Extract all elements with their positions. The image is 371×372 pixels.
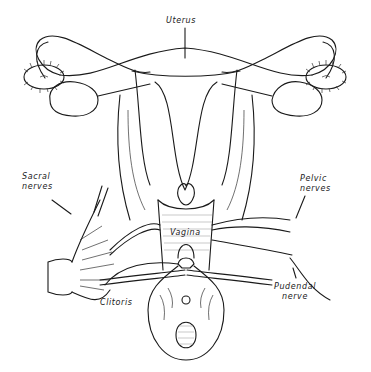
- right-ovary: [272, 82, 322, 116]
- pudendal-right-branch: [187, 270, 272, 285]
- sacral-trunk-upper: [72, 200, 100, 262]
- left-fallopian-tube: [36, 36, 150, 75]
- label-pudendal-line2: nerve: [282, 292, 308, 302]
- clitoris-leader-line: [105, 263, 178, 285]
- left-tube-inner: [37, 42, 48, 78]
- label-sacral-line2: nerves: [22, 182, 53, 192]
- urethral-opening: [182, 296, 190, 304]
- left-pelvic-branches: [110, 224, 160, 255]
- label-pelvic-line2: nerves: [300, 184, 331, 194]
- sacral-label-arrow: [52, 200, 71, 214]
- uterine-cavity: [155, 82, 217, 190]
- introitus-hatching: [178, 326, 194, 344]
- anatomy-diagram: Uterus Sacral nerves Pelvic nerves Vagin…: [0, 0, 371, 372]
- label-clitoris: Clitoris: [100, 298, 133, 308]
- clitoris-glans: [178, 258, 194, 268]
- right-fallopian-tube: [222, 36, 336, 75]
- uterus-left-wall: [135, 70, 150, 185]
- broad-ligament-lines: [118, 95, 255, 220]
- sacral-upper-branches: [94, 186, 108, 216]
- uterus-fundus: [60, 48, 312, 76]
- left-ovarian-ligament: [98, 84, 150, 96]
- pelvic-label-arrow: [296, 196, 305, 218]
- uterus-right-wall: [222, 70, 237, 185]
- pudendal-label-leader: [293, 268, 296, 278]
- sacral-nerve-root: [48, 259, 72, 295]
- vulva-outline: [148, 266, 224, 360]
- uterine-vessels: [128, 110, 244, 210]
- vaginal-opening-top: [178, 245, 194, 259]
- label-uterus: Uterus: [166, 16, 196, 26]
- left-ovary: [50, 82, 98, 116]
- label-pudendal-line1: Pudendal: [274, 282, 316, 292]
- label-vagina: Vagina: [170, 228, 201, 238]
- label-pelvic-line1: Pelvic: [300, 174, 327, 184]
- right-fimbriae: [306, 60, 346, 93]
- pelvic-nerves: [212, 218, 292, 255]
- label-sacral-line1: Sacral: [22, 172, 50, 182]
- right-ovarian-ligament: [222, 84, 272, 96]
